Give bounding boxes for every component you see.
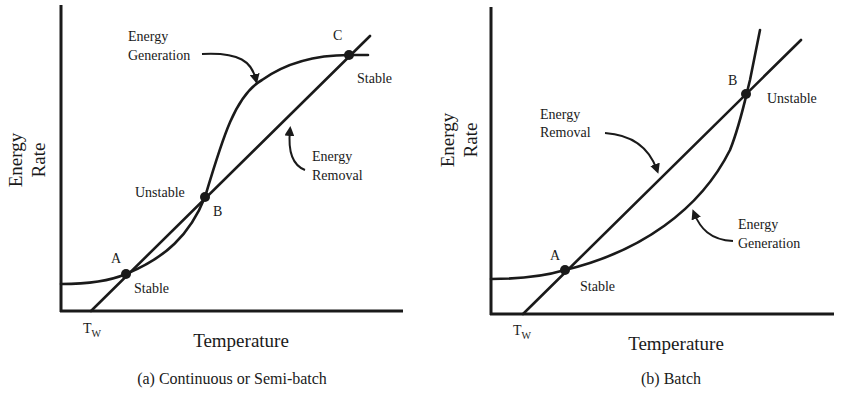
generation-label-line1: Energy [128, 29, 168, 44]
generation-label-line1: Energy [738, 217, 778, 232]
generation-label-line2: Generation [738, 236, 800, 251]
x-axis-label: Temperature [628, 333, 724, 354]
point-b-marker [200, 192, 210, 202]
point-c-state: Stable [357, 71, 392, 86]
y-axis-label-line1: Energy [437, 112, 458, 167]
caption-a: (a) Continuous or Semi-batch [137, 370, 327, 388]
point-a-marker [560, 265, 570, 275]
point-b-marker [741, 89, 751, 99]
removal-label-line1: Energy [540, 107, 580, 122]
removal-label-line2: Removal [540, 125, 591, 140]
panel-b: Energy Removal Energy Generation A Stabl… [437, 7, 834, 388]
point-a-label: A [550, 248, 561, 263]
point-c-label: C [333, 28, 342, 43]
y-axis-label-line1: Energy [5, 132, 26, 187]
point-a-state: Stable [580, 279, 615, 294]
y-axis-label-line2: Rate [460, 123, 481, 158]
energy-generation-curve [491, 30, 760, 279]
removal-pointer-arrow [605, 133, 657, 170]
removal-label-line1: Energy [312, 149, 352, 164]
generation-label-line2: Generation [128, 48, 190, 63]
y-axis-label-line2: Rate [28, 143, 49, 178]
point-b-label: B [213, 204, 222, 219]
point-a-state: Stable [134, 281, 169, 296]
point-b-state: Unstable [767, 91, 817, 106]
tw-label: TW [83, 321, 102, 339]
point-b-state: Unstable [135, 185, 185, 200]
panel-a: Energy Generation Energy Removal A Stabl… [5, 5, 403, 388]
tw-label: TW [513, 323, 532, 341]
removal-pointer-arrow [290, 130, 305, 170]
generation-pointer-arrow [202, 54, 256, 80]
generation-pointer-arrow [694, 213, 733, 241]
energy-balance-diagram: Energy Generation Energy Removal A Stabl… [0, 0, 841, 401]
point-c-marker [344, 50, 354, 60]
caption-b: (b) Batch [641, 370, 701, 388]
x-axis-label: Temperature [193, 330, 289, 351]
removal-label-line2: Removal [312, 168, 363, 183]
point-a-marker [121, 269, 131, 279]
point-a-label: A [111, 251, 122, 266]
point-b-label: B [728, 73, 737, 88]
